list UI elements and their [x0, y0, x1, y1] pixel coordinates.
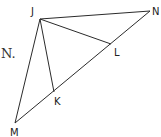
- vertex-label-j: J: [30, 6, 34, 17]
- segments-group: [15, 11, 150, 123]
- segment-jk: [40, 19, 54, 92]
- vertex-label-m: M: [10, 127, 19, 137]
- segment-jn: [40, 11, 150, 19]
- vertex-label-n: N: [152, 6, 159, 17]
- geometry-diagram: N. J N M K L: [0, 0, 161, 137]
- segment-jl: [40, 19, 111, 44]
- vertex-label-l: L: [114, 47, 120, 58]
- segment-jm: [15, 19, 40, 123]
- text-fragment: N.: [1, 46, 16, 61]
- segment-mn: [15, 11, 150, 123]
- vertex-label-k: K: [54, 96, 61, 107]
